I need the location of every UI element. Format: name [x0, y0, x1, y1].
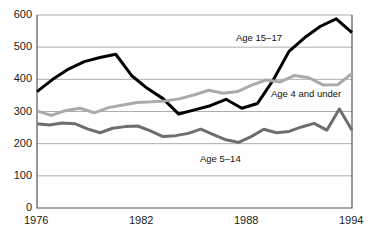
y-tick-label: 200	[4, 138, 32, 149]
x-tick-label: 1994	[0, 215, 375, 226]
y-tick-label: 300	[4, 106, 32, 117]
series-annotation: Age 5–14	[200, 154, 241, 164]
y-tick-label: 0	[4, 202, 32, 213]
chart-canvas	[0, 0, 375, 241]
series-annotation: Age 15–17	[236, 33, 282, 43]
y-tick-label: 600	[4, 9, 32, 20]
series-lines	[37, 19, 352, 143]
y-tick-label: 400	[4, 73, 32, 84]
series-line-age-15-17	[37, 19, 352, 114]
y-tick-label: 500	[4, 41, 32, 52]
line-chart: 0100200300400500600 1976198219881994 Age…	[0, 0, 375, 241]
y-tick-label: 100	[4, 170, 32, 181]
series-line-age-5-14	[37, 109, 352, 142]
series-annotation: Age 4 and under	[271, 89, 341, 99]
